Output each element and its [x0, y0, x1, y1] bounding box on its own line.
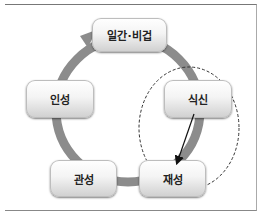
- siksin-to-jaeseong-arrow: [0, 0, 258, 212]
